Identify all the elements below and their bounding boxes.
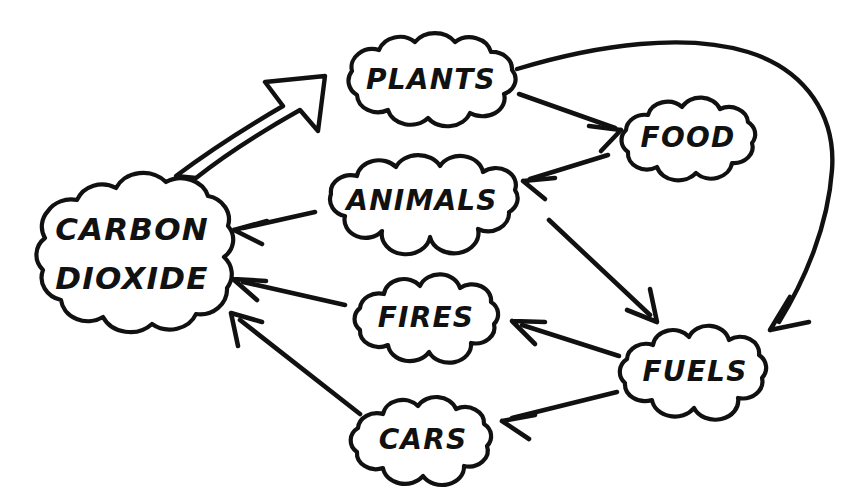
edge-food-to-animals [523,155,608,199]
co2-to-plants-block-arrow [176,76,325,178]
edge-cars-to-co2 [231,313,360,414]
edge-fuels-to-cars [502,392,617,439]
node-animals[interactable]: ANIMALS [330,155,518,254]
diagram-canvas: CARBON DIOXIDE PLANTS FOOD ANIMALS FIRES… [0,0,864,501]
edge-fuels-to-fires [512,321,619,356]
animals-to-fuels-line [549,220,650,315]
cars-to-co2-arrowhead [231,313,262,346]
node-fires[interactable]: FIRES [355,274,499,362]
cars-label: CARS [379,423,468,456]
node-carbon-dioxide[interactable]: CARBON DIOXIDE [36,173,233,332]
food-to-animals-line [530,155,608,179]
cars-to-co2-line [240,320,360,414]
node-food[interactable]: FOOD [621,98,755,181]
fires-to-co2-arrowhead [233,279,266,300]
plants-to-food-arrowhead [589,126,621,151]
plants-label: PLANTS [366,63,496,96]
plants-to-food-line [519,94,615,128]
edge-fires-to-co2 [233,279,345,305]
carbon-cycle-diagram: CARBON DIOXIDE PLANTS FOOD ANIMALS FIRES… [0,0,864,501]
node-plants[interactable]: PLANTS [349,33,516,126]
fuels-to-fires-line [522,325,619,356]
carbon-dioxide-label-line2: DIOXIDE [55,260,208,296]
node-fuels[interactable]: FUELS [620,326,766,420]
fuels-label: FUELS [643,355,748,388]
animals-label: ANIMALS [344,184,497,217]
node-cars[interactable]: CARS [351,397,491,485]
edge-plants-to-fuels [517,42,832,330]
carbon-dioxide-label-line1: CARBON [55,211,209,247]
edge-animals-to-fuels [549,220,657,322]
edge-plants-to-food [519,94,621,151]
food-to-animals-arrowhead [523,178,555,199]
fuels-to-cars-arrowhead [502,415,535,439]
fires-label: FIRES [378,301,474,334]
animals-to-co2-arrowhead [234,221,267,244]
food-label: FOOD [641,121,736,154]
edge-co2-to-plants [176,76,325,178]
edge-animals-to-co2 [234,212,315,244]
carbon-dioxide-cloud [36,173,233,332]
plants-to-fuels-arrowhead [770,297,809,330]
